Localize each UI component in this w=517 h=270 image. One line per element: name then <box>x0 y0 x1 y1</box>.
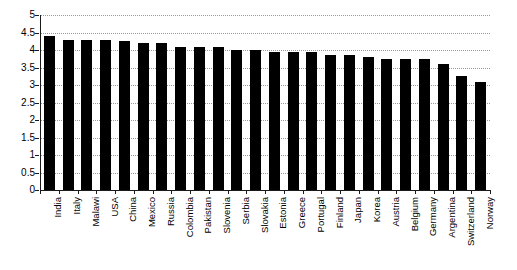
x-axis-tick-label-text: Malawi <box>91 197 101 227</box>
x-axis-tick-mark <box>190 190 191 194</box>
x-axis-tick-label-text: Norway <box>485 197 495 229</box>
x-axis-tick-label: Italy <box>72 197 82 214</box>
x-axis-tick-label-text: Korea <box>372 197 382 222</box>
bar <box>306 52 317 190</box>
bar <box>44 36 55 190</box>
x-axis-tick-label-text: Belgium <box>410 197 420 231</box>
x-axis-tick-mark <box>171 190 172 194</box>
x-axis-tick-mark <box>490 190 491 194</box>
y-axis-tick-labels: 00.511.522.533.544.55 <box>0 0 35 270</box>
x-axis-tick-label: Greece <box>297 197 307 228</box>
x-axis-tick-mark <box>246 190 247 194</box>
x-axis-tick-label: Pakistan <box>203 197 213 233</box>
x-axis-tick-mark <box>284 190 285 194</box>
y-axis-tick-label: 4.5 <box>21 28 35 38</box>
y-axis-tick-label: 1.5 <box>21 133 35 143</box>
bar <box>400 59 411 190</box>
x-axis-tick-label-text: Greece <box>297 197 307 228</box>
x-axis-tick-mark <box>134 190 135 194</box>
x-axis-tick-mark <box>321 190 322 194</box>
x-axis-tick-label-text: Portugal <box>316 197 326 232</box>
x-axis-tick-label-text: Austria <box>391 197 401 227</box>
x-axis-tick-mark <box>228 190 229 194</box>
y-axis-tick-label: 0.5 <box>21 168 35 178</box>
bar <box>194 47 205 191</box>
bar <box>419 59 430 190</box>
bar <box>475 82 486 191</box>
x-axis-tick-mark <box>359 190 360 194</box>
x-axis-tick-mark <box>59 190 60 194</box>
x-axis-tick-label: Mexico <box>147 197 157 227</box>
bar <box>325 55 336 190</box>
bar <box>63 40 74 191</box>
x-axis-tick-label: USA <box>110 197 120 217</box>
bar-chart: 00.511.522.533.544.55 IndiaItalyMalawiUS… <box>0 0 517 270</box>
x-axis-tick-label-text: Argentina <box>447 197 457 238</box>
x-axis-tick-label-text: Germany <box>428 197 438 236</box>
y-axis-tick-mark <box>35 190 39 191</box>
x-axis-tick-label: Korea <box>372 197 382 222</box>
bar <box>381 59 392 190</box>
x-axis-tick-mark <box>396 190 397 194</box>
x-axis-tick-label-text: Japan <box>353 197 363 223</box>
x-axis-tick-mark <box>303 190 304 194</box>
y-axis-tick-mark <box>35 173 39 174</box>
x-axis-tick-mark <box>453 190 454 194</box>
bar <box>438 64 449 190</box>
bar <box>213 47 224 191</box>
x-axis-tick-label: Portugal <box>316 197 326 232</box>
x-axis-tick-mark <box>471 190 472 194</box>
x-axis-tick-label-text: Slovenia <box>222 197 232 233</box>
x-axis-tick-label-text: Mexico <box>147 197 157 227</box>
x-axis-tick-label: India <box>53 197 63 218</box>
x-axis-tick-label: Austria <box>391 197 401 227</box>
y-axis-tick-mark <box>35 120 39 121</box>
x-axis-tick-label-text: Colombia <box>185 197 195 237</box>
bar <box>344 55 355 190</box>
x-axis-tick-label: Germany <box>428 197 438 236</box>
bar <box>119 41 130 190</box>
x-axis-tick-label-text: Switzerland <box>466 197 476 246</box>
x-axis-tick-label-text: USA <box>110 197 120 217</box>
x-axis-tick-mark <box>78 190 79 194</box>
x-axis-tick-label: Estonia <box>278 197 288 229</box>
bar <box>250 50 261 190</box>
gridline <box>40 33 490 34</box>
y-axis-tick-mark <box>35 85 39 86</box>
x-axis-tick-label: Russia <box>166 197 176 226</box>
x-axis-tick-label: Switzerland <box>466 197 476 246</box>
y-axis-tick-label: 2.5 <box>21 98 35 108</box>
x-axis-tick-mark <box>415 190 416 194</box>
x-axis-tick-label: Colombia <box>185 197 195 237</box>
x-axis-tick-mark <box>209 190 210 194</box>
x-axis-tick-mark <box>378 190 379 194</box>
plot-area <box>40 15 490 190</box>
bar <box>175 47 186 191</box>
y-axis-tick-mark <box>35 50 39 51</box>
bar <box>138 43 149 190</box>
x-axis-tick-label-text: Estonia <box>278 197 288 229</box>
y-axis-tick-mark <box>35 103 39 104</box>
x-axis-tick-mark <box>96 190 97 194</box>
x-axis-tick-mark <box>265 190 266 194</box>
x-axis-tick-label: China <box>128 197 138 222</box>
x-axis-tick-mark <box>40 190 41 194</box>
x-axis-tick-label-text: Italy <box>72 197 82 214</box>
x-axis-tick-mark <box>434 190 435 194</box>
x-axis-tick-label-text: China <box>128 197 138 222</box>
x-axis-tick-label-text: Finland <box>335 197 345 228</box>
y-axis-line <box>40 15 41 190</box>
x-axis-tick-label: Argentina <box>447 197 457 238</box>
x-axis-tick-label: Norway <box>485 197 495 229</box>
x-axis-tick-label-text: Russia <box>166 197 176 226</box>
bar <box>456 76 467 190</box>
x-axis-tick-label-text: Pakistan <box>203 197 213 233</box>
bar <box>231 50 242 190</box>
y-axis-tick-mark <box>35 138 39 139</box>
x-axis-tick-label: Malawi <box>91 197 101 227</box>
x-axis-tick-mark <box>340 190 341 194</box>
bar <box>100 40 111 191</box>
bar <box>81 40 92 191</box>
x-axis-tick-label: Serbia <box>241 197 251 224</box>
y-axis-tick-mark <box>35 68 39 69</box>
